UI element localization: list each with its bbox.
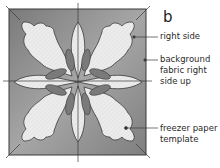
label-background-line2: fabric right	[160, 65, 210, 76]
label-background-line1: background	[160, 54, 210, 65]
panel-letter: b	[163, 8, 173, 26]
label-right-side: right side	[160, 31, 200, 42]
label-freezer-line2: template	[160, 134, 217, 145]
label-freezer-line1: freezer paper	[160, 123, 217, 134]
label-background-line3: side up	[160, 76, 210, 87]
label-background-fabric: background fabric right side up	[160, 54, 210, 87]
label-freezer-paper-template: freezer paper template	[160, 123, 217, 145]
